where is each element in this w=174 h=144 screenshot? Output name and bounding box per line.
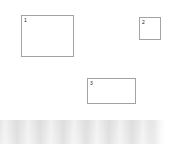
region-box-3-label: 3 — [90, 80, 93, 86]
region-box-2[interactable]: 2 — [139, 17, 161, 40]
screenshot-canvas: 1 2 3 — [0, 0, 174, 144]
region-box-2-label: 2 — [142, 19, 145, 25]
region-box-3[interactable]: 3 — [87, 78, 136, 104]
region-box-1[interactable]: 1 — [21, 15, 74, 57]
region-box-1-label: 1 — [24, 17, 27, 23]
bottom-gray-band — [0, 120, 165, 144]
bottom-gray-band-right-fade — [149, 120, 165, 144]
